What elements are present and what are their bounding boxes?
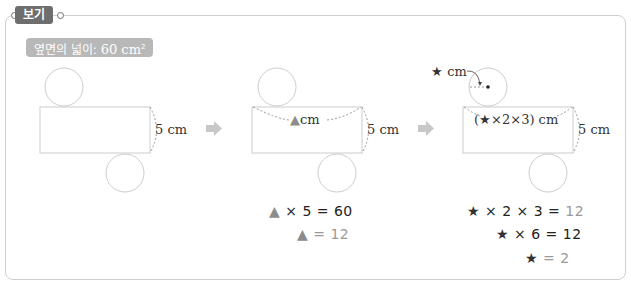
net-3-radius-pointer-head	[478, 82, 482, 86]
arrow-2-icon	[418, 121, 434, 136]
net-3-radius-label: ★ cm	[431, 64, 467, 79]
step2-equation-1-result: 60	[334, 203, 353, 219]
star-icon: ★	[496, 226, 509, 242]
arrow-1-icon	[206, 121, 222, 136]
net-2-bottom-circle	[318, 154, 356, 192]
step2-equation-2-result: 12	[330, 226, 349, 242]
step3-equation-2-result: 12	[563, 226, 582, 242]
net-1-height-label: 5 cm	[155, 122, 187, 137]
step2-equation-1: ▲ × 5 = 60	[269, 203, 353, 219]
step3-equation-2: ★ × 6 = 12	[496, 226, 582, 242]
net-2-width-brace-right	[327, 107, 361, 120]
net-2	[252, 68, 369, 192]
net-2-width-label: ▲cm	[290, 112, 320, 127]
net-2-width-brace-left	[253, 107, 290, 120]
net-2-height-label: 5 cm	[367, 122, 399, 137]
step3-equation-1: ★ × 2 × 3 = 12	[467, 203, 584, 219]
star-icon: ★	[525, 250, 538, 266]
step3-equation-3-result: 2	[560, 250, 569, 266]
star-icon: ★	[467, 203, 480, 219]
net-1	[40, 68, 157, 192]
net-1-rectangle	[40, 107, 150, 153]
star-icon: ★	[431, 64, 443, 79]
triangle-icon: ▲	[290, 112, 300, 127]
net-3-bottom-circle	[529, 154, 567, 192]
step3-equation-1-result: 12	[565, 203, 584, 219]
step2-equation-2: ▲ = 12	[297, 226, 349, 242]
net-3-center-dot	[486, 85, 490, 89]
net-3	[463, 68, 580, 192]
triangle-icon: ▲	[269, 203, 280, 219]
net-3-radius-unit: cm	[447, 64, 467, 79]
triangle-icon: ▲	[297, 226, 308, 242]
net-3-height-label: 5 cm	[578, 122, 610, 137]
net-2-top-circle	[258, 68, 296, 106]
net-1-bottom-circle	[106, 154, 144, 192]
net-2-width-unit: cm	[300, 112, 320, 127]
net-3-width-label: (★×2×3) cm	[474, 112, 558, 127]
step3-equation-3: ★ = 2	[525, 250, 570, 266]
net-3-width-brace-right	[557, 107, 572, 116]
cylinder-nets-diagram	[0, 0, 631, 285]
net-1-top-circle	[45, 68, 83, 106]
